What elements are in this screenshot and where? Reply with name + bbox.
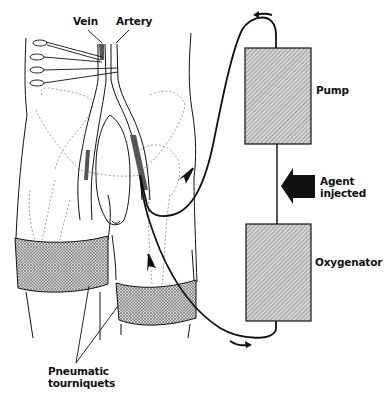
pump-box [245, 48, 311, 144]
vessel-leader-lines [88, 30, 129, 43]
right-tourniquet [116, 280, 196, 325]
vessels [78, 44, 150, 220]
pneumatic-tourniquets-label: Pneumatic tourniquets [48, 365, 108, 389]
pump-label: Pump [316, 84, 349, 96]
oxygenator-label: Oxygenator [315, 256, 382, 268]
genital-outline [96, 115, 130, 225]
top-flow-arrow-head-icon [253, 11, 259, 18]
vein-shading [84, 44, 148, 190]
agent-injected-arrow-icon [281, 168, 315, 204]
bottom-flow-arrow-head-icon [245, 341, 252, 348]
left-tourniquet [15, 236, 108, 292]
tourniquets-line2: tourniquets [48, 377, 108, 389]
agent-injected-line2: injected [320, 187, 380, 199]
agent-injected-line1: Agent [320, 175, 380, 187]
agent-injected-label: Agent injected [320, 175, 380, 199]
tourniquet-leader-lines [76, 286, 118, 363]
vein-label: Vein [73, 15, 98, 27]
oxygenator-box [246, 224, 311, 321]
artery-label: Artery [116, 15, 152, 27]
tourniquets-line1: Pneumatic [48, 365, 108, 377]
